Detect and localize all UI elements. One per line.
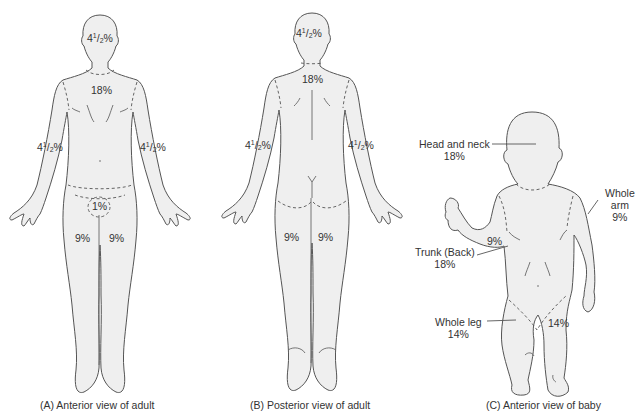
caption-anterior-baby: (C) Anterior view of baby — [486, 399, 601, 411]
adult-anterior-right-arm-value: 41/2% — [140, 139, 166, 156]
baby-head-neck-label: Head and neck 18% — [419, 138, 490, 162]
adult-anterior-left-arm-value: 41/2% — [37, 139, 63, 156]
adult-posterior-trunk-value: 18% — [302, 73, 323, 85]
adult-posterior-figure — [222, 13, 402, 391]
baby-leg-inline-value: 14% — [548, 317, 569, 329]
adult-posterior-head-value: 41/2% — [296, 25, 322, 42]
adult-anterior-trunk-value: 18% — [91, 84, 112, 96]
adult-anterior-right-leg-value: 9% — [109, 232, 124, 244]
adult-posterior-right-arm-value: 41/2% — [348, 137, 374, 154]
caption-anterior-adult: (A) Anterior view of adult — [40, 399, 154, 411]
adult-anterior-head-value: 41/2% — [87, 30, 113, 47]
caption-posterior-adult: (B) Posterior view of adult — [250, 399, 370, 411]
baby-whole-leg-label: Whole leg 14% — [435, 316, 482, 340]
baby-arm-inline-value: 9% — [487, 235, 502, 247]
baby-whole-arm-label: Whole arm 9% — [605, 187, 635, 223]
baby-trunk-label: Trunk (Back) 18% — [415, 246, 475, 270]
adult-posterior-right-leg-value: 9% — [318, 231, 333, 243]
adult-posterior-left-leg-value: 9% — [284, 231, 299, 243]
adult-anterior-left-leg-value: 9% — [75, 232, 90, 244]
adult-anterior-genital-value: 1% — [92, 200, 107, 212]
adult-posterior-left-arm-value: 41/2% — [245, 137, 271, 154]
